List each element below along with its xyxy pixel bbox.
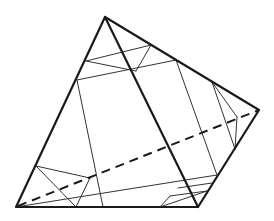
geometric-diagram <box>0 0 274 221</box>
fold-line <box>136 45 151 71</box>
fold-line <box>212 82 237 117</box>
fold-line <box>86 45 151 61</box>
fold-line <box>176 60 217 175</box>
fold-line <box>212 82 235 149</box>
fold-line <box>16 175 217 207</box>
fold-line <box>77 80 103 207</box>
fold-line <box>36 166 90 178</box>
diagram-canvas <box>0 0 274 221</box>
fold-line <box>170 191 207 196</box>
fold-line <box>178 183 212 188</box>
thin-fold-lines <box>16 45 237 207</box>
